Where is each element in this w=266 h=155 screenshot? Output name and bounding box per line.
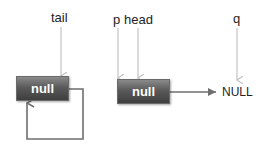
node-value: null xyxy=(132,84,155,99)
null-terminal-label: NULL xyxy=(222,86,253,98)
list-node-right: null xyxy=(117,79,170,104)
head-label: head xyxy=(124,13,153,26)
q-label: q xyxy=(233,12,240,25)
tail-label: tail xyxy=(51,11,68,24)
list-node-left: null xyxy=(16,76,69,101)
p-label: p xyxy=(113,13,120,26)
node-value: null xyxy=(31,81,54,96)
